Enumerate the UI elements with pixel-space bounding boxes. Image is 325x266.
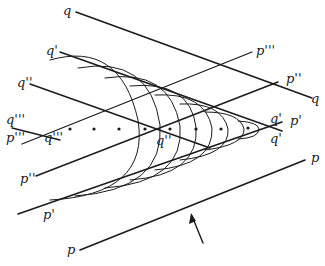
label-p2-left: p'' bbox=[20, 172, 35, 185]
label-q1-left: q' bbox=[46, 44, 58, 57]
line-p2 bbox=[36, 82, 278, 176]
diagram-canvas: q q q' q' q' q'' q'' q''' q''' p''' p'''… bbox=[0, 0, 325, 266]
source-point bbox=[168, 127, 171, 130]
wavefront-arc bbox=[205, 112, 244, 150]
source-point bbox=[246, 126, 249, 129]
label-p2-right: p'' bbox=[286, 72, 301, 85]
label-q2-left: q'' bbox=[17, 76, 32, 89]
source-point bbox=[117, 127, 120, 130]
label-q2-center: q'' bbox=[156, 134, 171, 147]
label-p1-right: p' bbox=[290, 114, 302, 127]
label-q3-left: q''' bbox=[6, 113, 25, 126]
label-p3-left: p''' bbox=[6, 131, 25, 144]
label-q-top: q bbox=[63, 4, 71, 17]
label-p1-left: p' bbox=[43, 208, 55, 221]
source-point bbox=[194, 127, 197, 130]
source-point bbox=[143, 127, 146, 130]
line-q1-upper bbox=[60, 52, 282, 131]
label-q1-right-upper: q' bbox=[270, 112, 282, 125]
label-q3-center: q''' bbox=[44, 131, 63, 144]
source-point bbox=[219, 127, 222, 130]
line-q bbox=[76, 12, 312, 98]
source-point bbox=[92, 127, 95, 130]
line-p bbox=[80, 160, 305, 250]
source-point bbox=[68, 127, 71, 130]
label-q-top-right: q bbox=[311, 92, 319, 105]
label-p3-right: p''' bbox=[256, 44, 275, 57]
label-p-bottom-right: p bbox=[311, 151, 319, 164]
label-p-bottom-left: p bbox=[67, 243, 75, 256]
label-q1-right-lower: q' bbox=[270, 132, 282, 145]
